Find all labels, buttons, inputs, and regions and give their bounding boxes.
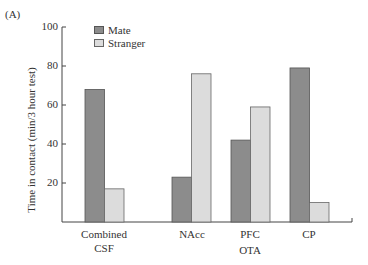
legend-label-stranger: Stranger xyxy=(108,37,145,49)
legend-item-mate: Mate xyxy=(94,24,131,36)
legend-label-mate: Mate xyxy=(108,24,131,36)
legend-swatch-mate xyxy=(94,26,104,34)
bar-stranger-cp xyxy=(310,203,330,223)
x-label-csf: CSF xyxy=(64,241,144,255)
y-tick-60: 60 xyxy=(34,98,58,110)
y-tick-20: 20 xyxy=(34,176,58,188)
legend-item-stranger: Stranger xyxy=(94,37,145,49)
x-label-cp: CP xyxy=(269,227,349,241)
x-label-combined: Combined xyxy=(64,227,144,241)
plot-area xyxy=(0,0,368,265)
y-tick-40: 40 xyxy=(34,137,58,149)
x-label-combined-csf: Combined CSF xyxy=(64,227,144,255)
bar-stranger-combined-csf xyxy=(105,189,125,222)
y-tick-80: 80 xyxy=(34,59,58,71)
bar-mate-nacc xyxy=(172,177,192,222)
bar-stranger-pfc xyxy=(251,107,271,222)
bar-stranger-nacc xyxy=(192,74,212,222)
bar-mate-combined-csf xyxy=(85,89,105,222)
x-group-label-ota: OTA xyxy=(210,243,290,257)
bar-mate-cp xyxy=(290,68,310,222)
bar-mate-pfc xyxy=(231,140,251,222)
legend-swatch-stranger xyxy=(94,39,104,47)
y-tick-100: 100 xyxy=(34,20,58,32)
